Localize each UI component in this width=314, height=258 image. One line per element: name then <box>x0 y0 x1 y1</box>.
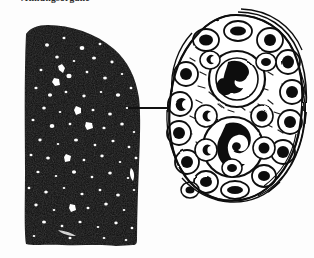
tissue-grain <box>20 20 146 252</box>
alveolus <box>221 181 249 199</box>
alveolus <box>195 105 217 127</box>
figure-artwork <box>0 0 314 258</box>
alveolus <box>222 159 242 177</box>
alveolus <box>276 50 300 74</box>
figure-root: Atmungsorgane <box>0 0 314 258</box>
alveolus <box>224 21 252 41</box>
alveolus <box>200 51 220 69</box>
alveolus <box>251 105 273 127</box>
alveolus <box>280 80 304 104</box>
lung-lobule-detail <box>167 9 306 202</box>
alveolus <box>195 139 217 161</box>
alveolus <box>256 53 276 71</box>
lung-tissue-section <box>20 20 146 252</box>
alveolus <box>193 29 219 51</box>
alveolus <box>253 137 275 159</box>
